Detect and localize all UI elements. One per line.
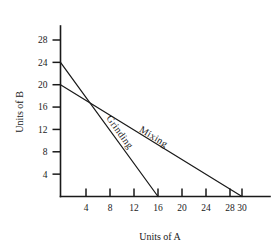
y-axis-title: Units of B	[14, 91, 25, 133]
y-axis-tick-label: 20	[38, 80, 48, 90]
y-axis-tick-label: 8	[43, 147, 48, 157]
y-axis-tick-labels: 481216202428	[38, 35, 48, 179]
x-axis-tick-label: 12	[129, 203, 139, 213]
x-axis-title: Units of A	[139, 231, 181, 242]
chart-figure: 481216202428 48121620242830 GrindingMixi…	[0, 0, 276, 248]
y-axis-ticks	[53, 40, 61, 174]
y-axis-tick-label: 28	[38, 35, 48, 45]
x-axis-tick-label: 30	[237, 203, 247, 213]
y-axis-tick-label: 4	[43, 170, 48, 180]
series-label-mixing: Mixing	[138, 124, 170, 150]
x-axis-ticks	[86, 189, 242, 197]
y-axis-tick-label: 24	[38, 58, 48, 68]
y-axis-tick-label: 12	[38, 125, 48, 135]
y-axis-tick-label: 16	[38, 102, 48, 112]
x-axis-tick-label: 20	[177, 203, 187, 213]
x-axis-tick-label: 8	[108, 203, 113, 213]
x-axis-tick-label: 4	[84, 203, 89, 213]
x-axis-tick-label: 24	[201, 203, 211, 213]
chart-plot-area: 481216202428 48121620242830 GrindingMixi…	[0, 0, 276, 248]
x-axis-tick-label: 16	[153, 203, 163, 213]
x-axis-tick-labels: 48121620242830	[84, 203, 247, 213]
x-axis-tick-label: 28	[225, 203, 235, 213]
